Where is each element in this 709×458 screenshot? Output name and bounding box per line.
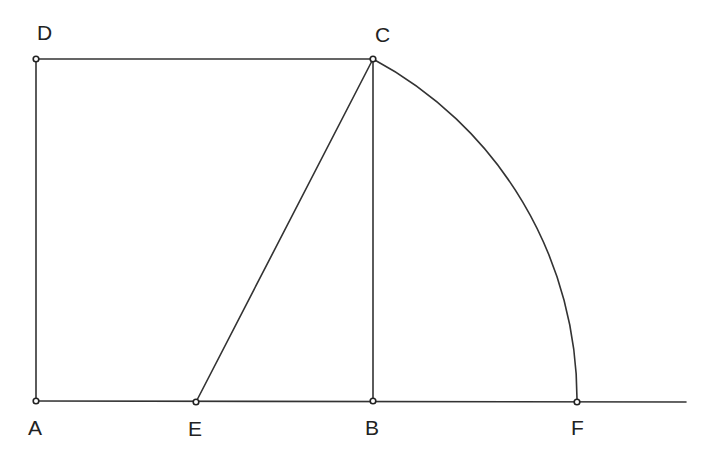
lines-group (36, 59, 686, 402)
point-c (370, 56, 376, 62)
segment-ec (196, 59, 373, 402)
geometry-diagram: A B C D E F (0, 0, 709, 458)
label-a: A (28, 416, 42, 439)
labels-group: A B C D E F (28, 21, 584, 440)
point-f (574, 399, 580, 405)
label-b: B (365, 416, 379, 439)
label-d: D (37, 21, 52, 44)
point-e (193, 399, 199, 405)
point-a (33, 398, 39, 404)
baseline (36, 401, 686, 402)
point-b (370, 398, 376, 404)
label-e: E (188, 417, 202, 440)
label-f: F (571, 416, 584, 439)
points-group (33, 56, 580, 405)
arc-cf (373, 59, 577, 402)
point-d (33, 56, 39, 62)
label-c: C (375, 23, 390, 46)
